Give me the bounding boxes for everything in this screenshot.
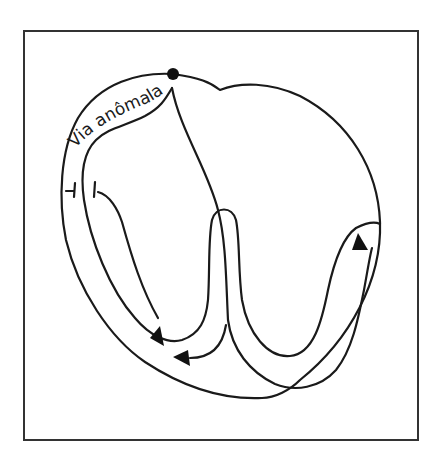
node-dot [167,68,179,80]
anomalous-pathway-inner-edge [83,88,381,356]
arrow-right-up-icon [352,233,368,250]
septum-line [172,88,372,388]
arrow-left-down-icon [150,326,164,346]
arrow-center-left-icon [173,350,190,366]
conduction-path-left [98,192,158,318]
block-bar-inner [94,182,95,197]
heart-conduction-diagram: Via anômala [0,0,434,466]
conduction-path-center [190,325,226,358]
block-bar-outer [66,183,75,197]
